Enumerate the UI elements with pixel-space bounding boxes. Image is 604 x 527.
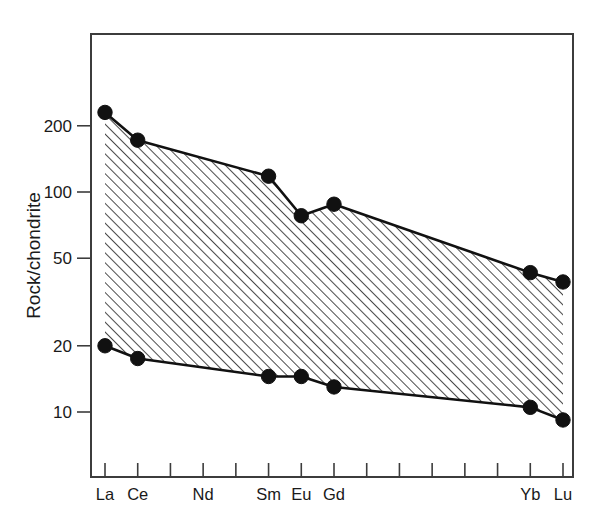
y-tick-label-100: 100 (44, 183, 72, 202)
data-point-upper-la (98, 105, 112, 119)
ree-chondrite-normalized-diagram: LaCeNdSmEuGdYbLu 200100502010 Rock/chond… (0, 0, 604, 527)
x-tick-label-ce: Ce (127, 485, 148, 503)
data-point-lower-lu (556, 413, 570, 427)
chart-canvas: LaCeNdSmEuGdYbLu 200100502010 Rock/chond… (0, 0, 604, 527)
data-point-lower-sm (261, 369, 275, 383)
x-tick-label-eu: Eu (291, 485, 311, 503)
data-point-upper-eu (294, 209, 308, 223)
data-point-lower-la (98, 339, 112, 353)
y-axis-title: Rock/chondrite (23, 192, 44, 319)
x-tick-label-lu: Lu (554, 485, 572, 503)
data-point-upper-gd (327, 197, 341, 211)
x-axis-ticks (105, 463, 563, 477)
data-point-upper-lu (556, 275, 570, 289)
x-tick-label-gd: Gd (323, 485, 345, 503)
x-tick-label-nd: Nd (193, 485, 214, 503)
y-tick-label-50: 50 (53, 249, 72, 268)
data-point-upper-ce (131, 133, 145, 147)
data-point-upper-sm (261, 169, 275, 183)
y-tick-label-10: 10 (53, 403, 72, 422)
y-tick-label-200: 200 (44, 117, 72, 136)
y-axis-title-text: Rock/chondrite (23, 192, 44, 319)
x-axis-tick-labels: LaCeNdSmEuGdYbLu (96, 485, 572, 503)
data-point-lower-yb (523, 400, 537, 414)
hatched-band (105, 112, 563, 420)
data-point-upper-yb (523, 265, 537, 279)
y-axis-ticks (77, 126, 91, 412)
data-point-lower-ce (131, 351, 145, 365)
y-tick-label-20: 20 (53, 337, 72, 356)
data-point-lower-gd (327, 380, 341, 394)
data-point-lower-eu (294, 369, 308, 383)
envelope-band-area (105, 112, 563, 420)
x-tick-label-yb: Yb (520, 485, 540, 503)
x-tick-label-sm: Sm (256, 485, 281, 503)
y-axis-tick-labels: 200100502010 (44, 117, 72, 422)
x-tick-label-la: La (96, 485, 115, 503)
